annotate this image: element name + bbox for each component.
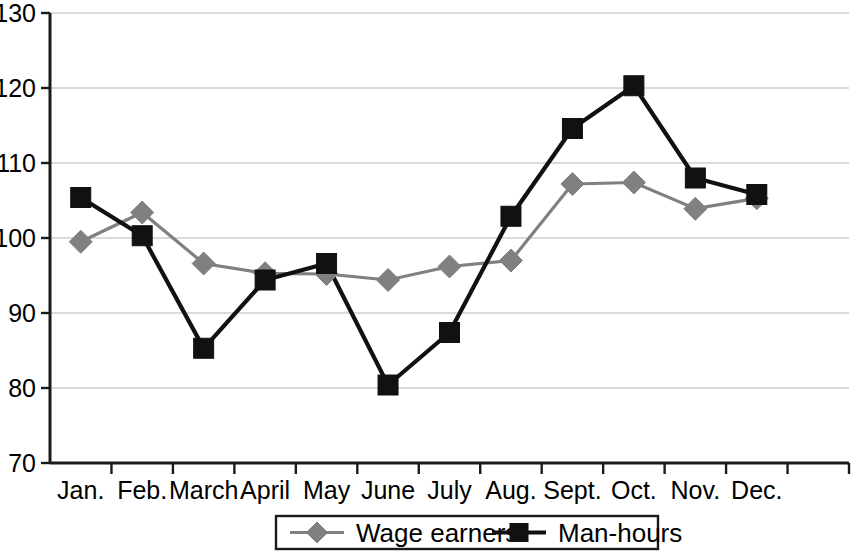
chart-canvas: 708090100110120130 Jan.Feb.MarchAprilMay…	[0, 0, 855, 552]
x-axis-category-label: Aug.	[485, 476, 536, 504]
x-axis-category-label: Oct.	[611, 476, 657, 504]
x-axis-category-label: July	[427, 476, 472, 504]
data-point-marker: Man-hours June: 80.4	[378, 375, 398, 395]
x-axis-category-label: Dec.	[731, 476, 782, 504]
data-point-marker: Man-hours Nov.: 108	[685, 168, 705, 188]
x-axis-category-label: Feb.	[117, 476, 167, 504]
line-chart: 708090100110120130 Jan.Feb.MarchAprilMay…	[0, 0, 855, 552]
y-axis-tick-label: 100	[0, 224, 36, 252]
data-point-marker: Man-hours July: 87.4	[440, 323, 460, 343]
legend-square-marker-icon	[510, 524, 528, 542]
x-axis-category-label: Jan.	[57, 476, 104, 504]
y-axis-tick-label: 70	[8, 449, 36, 477]
data-point-marker: Man-hours Sept.: 114.6	[562, 119, 582, 139]
x-axis-category-label: April	[240, 476, 290, 504]
x-axis-category-label: Nov.	[671, 476, 721, 504]
y-axis-tick-label: 120	[0, 74, 36, 102]
data-point-marker: Man-hours Aug.: 102.9	[501, 206, 521, 226]
data-point-marker: Man-hours April: 94.4	[255, 270, 275, 290]
data-point-marker: Man-hours Oct.: 120.3	[624, 76, 644, 96]
data-point-marker: Man-hours Jan.: 105.4	[71, 188, 91, 208]
data-point-marker: Man-hours Feb.: 100.3	[132, 226, 152, 246]
y-axis-tick-label: 80	[8, 374, 36, 402]
data-point-marker: Man-hours May: 96.6	[317, 254, 337, 274]
y-axis-tick-label: 130	[0, 0, 36, 27]
x-axis-category-label: Sept.	[543, 476, 601, 504]
x-axis-category-label: June	[361, 476, 415, 504]
legend-label: Man-hours	[558, 518, 682, 548]
data-point-marker: Man-hours March: 85.3	[194, 338, 214, 358]
chart-legend: Wage earnersMan-hours	[276, 516, 682, 549]
x-axis-category-label: May	[303, 476, 351, 504]
y-axis-tick-label: 110	[0, 149, 36, 177]
x-axis-category-label: March	[169, 476, 238, 504]
data-point-marker: Man-hours Dec.: 105.8	[747, 185, 767, 205]
y-axis-tick-label: 90	[8, 299, 36, 327]
